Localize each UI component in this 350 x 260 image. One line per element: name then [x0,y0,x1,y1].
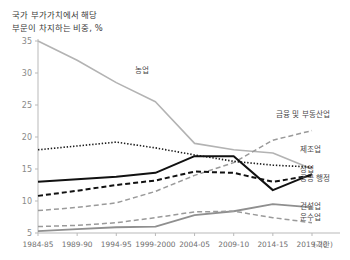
y-axis: 5101520253035 [22,37,38,238]
x-axis: 1984-851989-901994-951999-20002004-05200… [23,233,340,249]
series-label-운수업: 운수업 [300,213,321,222]
y-tick-label: 10 [22,197,32,206]
y-tick-label: 20 [22,133,32,142]
y-tick-label: 25 [22,101,32,110]
x-tick-label: 1984-85 [23,240,54,249]
x-tick-label: 1989-90 [62,240,93,249]
y-tick-label: 35 [22,37,32,46]
x-tick-label: 2014-15 [257,240,288,249]
y-tick-label: 15 [22,165,32,174]
series-line-운수업 [38,211,312,226]
series-lines [38,41,312,231]
y-tick-label: 30 [22,69,32,78]
x-tick-label: 2004-05 [179,240,210,249]
y-tick-label: 5 [27,229,32,238]
x-tick-label: 1994-95 [101,240,132,249]
series-label-공공 행정: 공공 행정 [300,173,330,183]
series-labels: 농업금융 및 부동산업제조업상업공공 행정건설업운수업 [135,66,330,222]
x-axis-unit-label: (기간) [313,240,333,249]
series-label-상업: 상업 [300,164,314,174]
series-line-농업 [38,41,312,169]
series-line-상업 [38,156,312,190]
chart-title-line-1: 국가 부가가치에서 해당 [12,10,97,20]
series-line-제조업 [38,142,312,167]
series-label-건설업: 건설업 [300,201,321,211]
chart-container: 국가 부가가치에서 해당 부문이 차지하는 비중, % 510152025303… [0,0,350,260]
chart-title-line-2: 부문이 차지하는 비중, % [12,23,103,33]
series-label-금융 및 부동산업: 금융 및 부동산업 [276,109,330,119]
series-line-금융 및 부동산업 [38,131,312,211]
x-tick-label: 2009-10 [218,240,249,249]
series-label-제조업: 제조업 [300,145,321,154]
line-chart: 국가 부가가치에서 해당 부문이 차지하는 비중, % 510152025303… [0,0,350,260]
series-label-농업: 농업 [135,66,149,75]
x-tick-label: 1999-2000 [135,240,176,249]
